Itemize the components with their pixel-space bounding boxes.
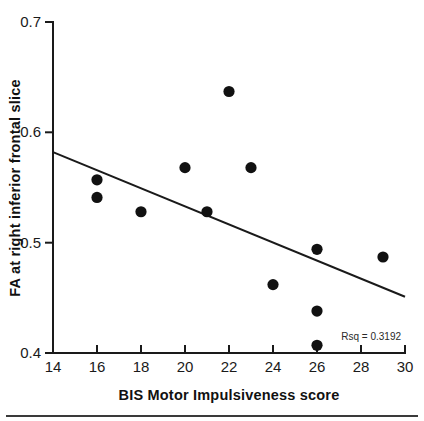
footer-divider [6, 415, 418, 417]
x-tick-label: 22 [221, 358, 238, 375]
data-point [91, 174, 102, 185]
data-point [91, 192, 102, 203]
x-tick-label: 16 [89, 358, 106, 375]
data-point [311, 305, 322, 316]
y-tick-label: 0.7 [20, 13, 41, 30]
data-point [311, 340, 322, 351]
x-axis-ticks [53, 345, 405, 353]
x-tick-label: 14 [45, 358, 62, 375]
data-point [267, 279, 278, 290]
y-tick-label: 0.5 [20, 234, 41, 251]
x-tick-label: 26 [309, 358, 326, 375]
data-point [179, 162, 190, 173]
x-tick-label: 28 [353, 358, 370, 375]
data-point [223, 86, 234, 97]
data-point [135, 206, 146, 217]
y-axis-ticks [45, 22, 53, 353]
data-point [311, 244, 322, 255]
data-point [245, 162, 256, 173]
data-point [377, 251, 388, 262]
x-tick-label: 20 [177, 358, 194, 375]
y-axis-title: FA at right inferior frontal slice [7, 79, 23, 296]
x-tick-label: 30 [397, 358, 414, 375]
x-tick-label: 24 [265, 358, 282, 375]
data-points-group [91, 86, 388, 351]
regression-line [53, 152, 405, 297]
y-tick-label: 0.4 [20, 344, 41, 361]
plot-svg: 0.7 0.6 0.5 0.4 14 16 18 20 22 24 26 28 … [0, 0, 424, 421]
x-axis-title: BIS Motor Impulsiveness score [119, 387, 340, 403]
x-tick-label: 18 [133, 358, 150, 375]
scatter-plot-figure: 0.7 0.6 0.5 0.4 14 16 18 20 22 24 26 28 … [0, 0, 424, 421]
data-point [201, 206, 212, 217]
y-tick-label: 0.6 [20, 123, 41, 140]
rsq-annotation: Rsq = 0.3192 [341, 331, 401, 342]
